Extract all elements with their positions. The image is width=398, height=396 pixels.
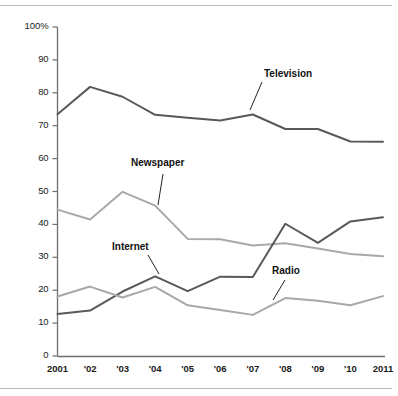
y-axis-tick-label: 70 <box>0 119 49 130</box>
series-label-radio: Radio <box>272 265 300 276</box>
y-axis-tick-label: 40 <box>0 217 49 228</box>
series-line-newspaper <box>58 192 384 256</box>
y-axis-tick-label: 0 <box>0 349 49 360</box>
chart-axes <box>53 27 386 357</box>
series-label-television: Television <box>264 68 312 79</box>
x-axis-tick-label: 2011 <box>361 363 398 374</box>
y-axis-tick-label: 90 <box>0 53 49 64</box>
leader-line-radio <box>273 280 285 300</box>
chart-series-group <box>58 87 384 315</box>
leader-line-newspaper <box>158 174 163 205</box>
leader-line-television <box>250 82 262 110</box>
y-axis-tick-label: 80 <box>0 86 49 97</box>
series-label-internet: Internet <box>112 241 149 252</box>
annotation-leader-lines <box>148 82 285 300</box>
series-label-newspaper: Newspaper <box>131 157 184 168</box>
leader-line-internet <box>148 255 159 274</box>
y-axis-tick-label: 10 <box>0 316 49 327</box>
y-axis-tick-label: 60 <box>0 152 49 163</box>
series-line-television <box>58 87 384 142</box>
y-axis-tick-label: 100% <box>0 20 49 31</box>
y-axis-tick-label: 30 <box>0 250 49 261</box>
y-axis-tick-label: 50 <box>0 185 49 196</box>
y-axis-ticks <box>53 27 58 356</box>
y-axis-tick-label: 20 <box>0 283 49 294</box>
series-line-internet <box>58 217 384 314</box>
